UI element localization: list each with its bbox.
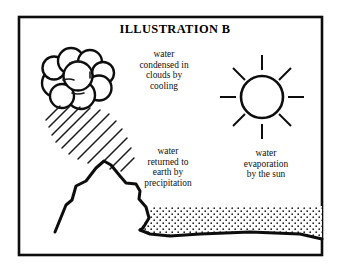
page-title: ILLUSTRATION B — [60, 22, 290, 37]
label-line: water — [218, 148, 314, 159]
label-line: clouds by — [118, 70, 210, 81]
label-line: condensed in — [118, 60, 210, 71]
label-line: earth by — [120, 167, 216, 178]
label-water-evaporation-by-the-sun: water evaporation by the sun — [218, 148, 314, 180]
label-line: precipitation — [120, 178, 216, 189]
label-line: by the sun — [218, 169, 314, 180]
label-line: returned to — [120, 157, 216, 168]
label-line: cooling — [118, 81, 210, 92]
label-line: water — [120, 146, 216, 157]
label-line: water — [118, 49, 210, 60]
illustration-b-diagram: ILLUSTRATION B water condensed in clouds… — [0, 0, 338, 275]
label-water-returned-to-earth-by-precipitation: water returned to earth by precipitation — [120, 146, 216, 188]
label-line: evaporation — [218, 159, 314, 170]
label-water-condensed-in-clouds-by-cooling: water condensed in clouds by cooling — [118, 49, 210, 91]
water-cycle-drawing — [0, 0, 338, 275]
